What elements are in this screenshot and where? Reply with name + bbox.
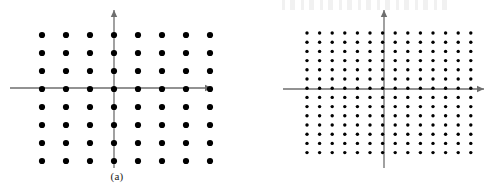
lattice-point bbox=[39, 158, 45, 164]
lattice-point bbox=[419, 96, 422, 99]
lattice-point bbox=[457, 77, 460, 80]
lattice-point bbox=[469, 59, 472, 62]
lattice-point bbox=[39, 68, 45, 74]
lattice-point bbox=[318, 123, 321, 126]
lattice-point bbox=[444, 96, 447, 99]
lattice-point bbox=[39, 140, 45, 146]
lattice-point bbox=[87, 68, 93, 74]
lattice-point bbox=[469, 50, 472, 53]
lattice-point bbox=[457, 142, 460, 145]
lattice-point bbox=[159, 68, 165, 74]
lattice-point bbox=[431, 133, 434, 136]
lattice-point bbox=[318, 41, 321, 44]
lattice-point bbox=[381, 31, 384, 34]
lattice-point bbox=[318, 77, 321, 80]
lattice-point bbox=[331, 142, 334, 145]
lattice-point bbox=[331, 123, 334, 126]
lattice-point bbox=[444, 133, 447, 136]
lattice-point bbox=[394, 77, 397, 80]
lattice-point bbox=[394, 41, 397, 44]
lattice-point bbox=[135, 104, 141, 110]
lattice-point bbox=[318, 105, 321, 108]
lattice-point bbox=[159, 50, 165, 56]
lattice-point bbox=[444, 105, 447, 108]
lattice-point bbox=[318, 68, 321, 71]
lattice-point bbox=[63, 158, 69, 164]
lattice-point bbox=[135, 122, 141, 128]
lattice-point bbox=[318, 87, 321, 90]
lattice-point bbox=[394, 105, 397, 108]
lattice-point bbox=[87, 140, 93, 146]
x-axis-arrowhead-icon bbox=[477, 86, 484, 92]
lattice-point bbox=[419, 41, 422, 44]
lattice-point bbox=[394, 87, 397, 90]
lattice-point bbox=[305, 50, 308, 53]
panel-b-lattice-plot bbox=[247, 0, 494, 194]
lattice-point bbox=[159, 104, 165, 110]
lattice-point bbox=[431, 59, 434, 62]
lattice-point bbox=[444, 151, 447, 154]
lattice-point bbox=[111, 122, 117, 128]
lattice-point bbox=[431, 123, 434, 126]
lattice-point bbox=[469, 123, 472, 126]
lattice-point bbox=[368, 133, 371, 136]
lattice-point bbox=[305, 123, 308, 126]
lattice-point bbox=[457, 87, 460, 90]
lattice-point bbox=[356, 142, 359, 145]
lattice-point bbox=[207, 86, 213, 92]
panel-a-lattice-plot bbox=[0, 0, 247, 194]
lattice-point bbox=[39, 122, 45, 128]
lattice-point bbox=[469, 142, 472, 145]
lattice-point bbox=[159, 122, 165, 128]
lattice-point bbox=[111, 104, 117, 110]
lattice-point bbox=[135, 68, 141, 74]
lattice-point bbox=[159, 32, 165, 38]
lattice-point bbox=[331, 50, 334, 53]
lattice-point bbox=[469, 133, 472, 136]
lattice-point bbox=[431, 41, 434, 44]
lattice-point bbox=[207, 50, 213, 56]
lattice-point bbox=[318, 96, 321, 99]
lattice-point bbox=[63, 68, 69, 74]
lattice-point bbox=[406, 133, 409, 136]
lattice-point bbox=[406, 50, 409, 53]
lattice-point bbox=[381, 41, 384, 44]
lattice-point bbox=[444, 41, 447, 44]
lattice-point bbox=[305, 87, 308, 90]
lattice-point bbox=[469, 87, 472, 90]
lattice-point bbox=[419, 133, 422, 136]
lattice-point bbox=[183, 122, 189, 128]
lattice-point bbox=[318, 114, 321, 117]
lattice-point bbox=[419, 31, 422, 34]
lattice-point bbox=[343, 68, 346, 71]
lattice-point bbox=[469, 96, 472, 99]
lattice-point bbox=[419, 105, 422, 108]
panel-b: (b) bbox=[247, 0, 494, 194]
lattice-point-group bbox=[39, 32, 213, 164]
lattice-point bbox=[368, 31, 371, 34]
lattice-point bbox=[183, 86, 189, 92]
lattice-point bbox=[394, 114, 397, 117]
lattice-point bbox=[331, 96, 334, 99]
lattice-point bbox=[305, 68, 308, 71]
lattice-point bbox=[356, 59, 359, 62]
lattice-point bbox=[444, 31, 447, 34]
lattice-point bbox=[356, 50, 359, 53]
lattice-point bbox=[444, 142, 447, 145]
lattice-point bbox=[356, 105, 359, 108]
lattice-point bbox=[159, 86, 165, 92]
lattice-point bbox=[419, 151, 422, 154]
lattice-point bbox=[406, 123, 409, 126]
lattice-point bbox=[356, 151, 359, 154]
panel-a-caption: (a) bbox=[87, 170, 147, 183]
lattice-point bbox=[183, 50, 189, 56]
lattice-point bbox=[394, 31, 397, 34]
panel-a: (a) bbox=[0, 0, 247, 194]
lattice-point bbox=[318, 151, 321, 154]
lattice-point bbox=[183, 158, 189, 164]
lattice-point bbox=[381, 50, 384, 53]
lattice-point bbox=[419, 68, 422, 71]
lattice-point bbox=[343, 41, 346, 44]
lattice-point bbox=[444, 59, 447, 62]
lattice-point bbox=[457, 133, 460, 136]
